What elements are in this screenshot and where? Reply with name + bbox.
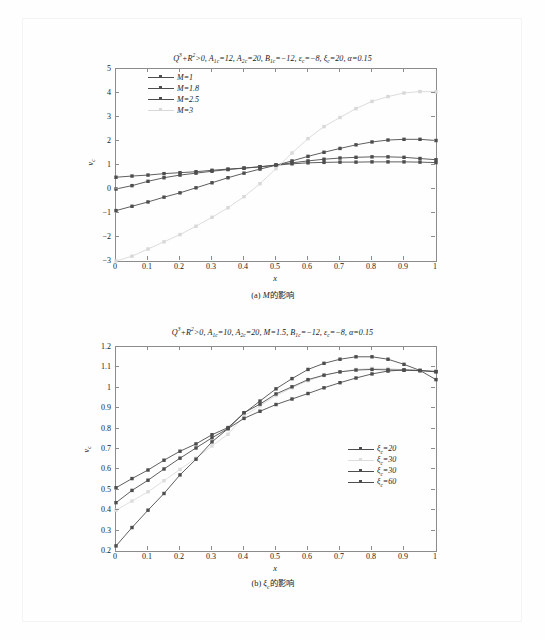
legend-label: ξc=30 [377,466,396,477]
series-marker [130,477,133,480]
y-tick-label: 1.1 [85,362,111,371]
series-marker [354,376,357,379]
y-tick-mark [115,530,119,531]
x-tick-mark [307,256,308,260]
series-marker [434,158,437,161]
series-marker [146,479,149,482]
series-marker [322,362,325,365]
legend-label: M=3 [177,106,193,115]
y-tick-label: −2 [85,232,111,241]
x-tick-mark [275,68,276,72]
series-marker [258,167,261,170]
series-marker [370,100,373,103]
y-tick-mark [431,509,435,510]
y-tick-label: 4 [85,88,111,97]
legend-item[interactable]: M=1 [148,72,199,83]
y-tick-mark [431,92,435,93]
series-marker [242,411,245,414]
legend-line-swatch [348,478,374,488]
figure-b-legend: ξc=20ξc=30ξc=30ξc=60 [348,444,396,488]
series-marker [146,509,149,512]
y-tick-label: 0.8 [85,423,111,432]
x-tick-label: 0.3 [206,552,216,561]
y-tick-label: 0.4 [85,505,111,514]
series-marker [338,358,341,361]
y-tick-mark [431,428,435,429]
x-tick-label: 0.9 [398,552,408,561]
y-tick-label: 0.9 [85,403,111,412]
series-marker [306,137,309,140]
y-tick-mark [115,489,119,490]
x-tick-label: 0.3 [206,262,216,271]
series-marker [386,369,389,372]
series-marker [194,446,197,449]
y-tick-mark [431,366,435,367]
x-tick-mark [275,546,276,550]
series-marker [370,140,373,143]
x-tick-label: 1 [433,262,437,271]
series-marker [322,161,325,164]
figure-a-xlabel: x [273,274,277,283]
series-marker [194,225,197,228]
legend-label: M=1.8 [177,84,199,93]
series-marker [162,195,165,198]
legend-line-swatch [348,467,374,477]
series-marker [418,157,421,160]
x-tick-mark [339,256,340,260]
series-marker [114,544,117,547]
x-tick-mark [179,346,180,350]
legend-item[interactable]: ξc=20 [348,444,396,455]
y-tick-mark [115,92,119,93]
x-tick-label: 0.2 [174,552,184,561]
series-marker [418,160,421,163]
legend-line-swatch [148,106,174,116]
series-marker [194,442,197,445]
legend-item[interactable]: M=1.8 [148,83,199,94]
legend-item[interactable]: M=3 [148,105,199,116]
series-marker [338,116,341,119]
series-marker [386,160,389,163]
figure-b-ylabel: vc [82,446,93,452]
legend-item[interactable]: M=2.5 [148,94,199,105]
x-tick-mark [147,256,148,260]
series-marker [146,173,149,176]
series-marker [338,156,341,159]
legend-item[interactable]: ξc=30 [348,455,396,466]
legend-item[interactable]: ξc=30 [348,466,396,477]
y-tick-label: 3 [85,112,111,121]
series-marker [274,167,277,170]
series-marker [418,90,421,93]
x-tick-label: 0.1 [142,262,152,271]
y-tick-mark [431,468,435,469]
series-marker [354,368,357,371]
series-marker [114,501,117,504]
series-marker [306,368,309,371]
legend-item[interactable]: ξc=60 [348,477,396,488]
document-page: Q3+R2>0, A1c=12, A2c=20, B1c=−12, εc=−8,… [0,0,545,640]
y-tick-label: 0.6 [85,464,111,473]
legend-label: M=2.5 [177,95,199,104]
x-tick-label: 0.7 [334,552,344,561]
y-tick-mark [115,212,119,213]
legend-label: ξc=20 [377,444,396,455]
x-tick-mark [371,546,372,550]
series-marker [178,473,181,476]
legend-label: ξc=60 [377,477,396,488]
series-marker [226,433,229,436]
x-tick-mark [275,256,276,260]
y-tick-mark [115,164,119,165]
series-marker [306,378,309,381]
series-marker [162,459,165,462]
x-tick-mark [211,68,212,72]
series-marker [258,410,261,413]
y-tick-label: 5 [85,64,111,73]
series-marker [242,195,245,198]
x-tick-mark [147,346,148,350]
x-tick-mark [211,546,212,550]
series-marker [322,386,325,389]
y-tick-mark [115,509,119,510]
series-marker [354,143,357,146]
x-tick-mark [211,256,212,260]
x-tick-label: 0.6 [302,262,312,271]
x-tick-mark [339,68,340,72]
